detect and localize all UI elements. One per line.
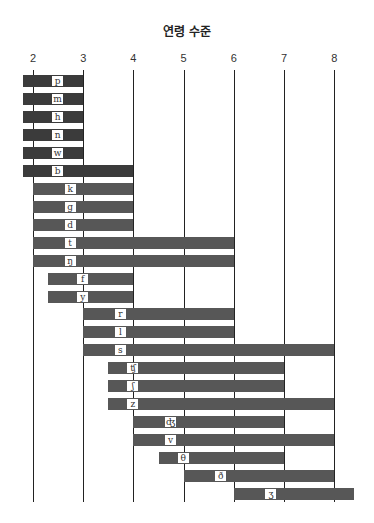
bar-f: f: [48, 273, 133, 285]
bar-label: h: [52, 112, 63, 122]
bar-label: r: [115, 309, 126, 319]
bar-d: d: [33, 219, 133, 231]
bar-y: y: [48, 291, 133, 303]
bar-label: θ: [178, 453, 189, 463]
bar-label: n: [52, 130, 63, 140]
bar-v: v: [133, 434, 334, 446]
x-tick-label: 2: [23, 52, 43, 64]
bar-label: ð: [215, 471, 226, 481]
bar-m: m: [23, 93, 83, 105]
bar-label: t: [65, 238, 76, 248]
bar-h: h: [23, 111, 83, 123]
bar-ʤ: ʤ: [133, 416, 284, 428]
x-tick-label: 5: [174, 52, 194, 64]
bar-label: ŋ: [65, 256, 76, 266]
chart-area: 연령 수준 2345678 pmhnwbkgdtŋfyrlsʧʃzʤvθðʒ: [0, 0, 374, 523]
x-tick-label: 3: [73, 52, 93, 64]
bar-ŋ: ŋ: [33, 255, 234, 267]
bar-label: g: [65, 202, 76, 212]
bar-label: z: [127, 399, 138, 409]
bar-k: k: [33, 183, 133, 195]
bar-θ: θ: [159, 452, 285, 464]
bar-label: ʧ: [127, 363, 138, 373]
bar-label: m: [52, 94, 63, 104]
bar-p: p: [23, 75, 83, 87]
bar-label: p: [52, 76, 63, 86]
bar-label: y: [77, 292, 88, 302]
bar-label: k: [65, 184, 76, 194]
bar-label: ʒ: [265, 489, 276, 499]
bar-ʒ: ʒ: [234, 488, 354, 500]
bar-label: v: [165, 435, 176, 445]
bar-label: s: [115, 345, 126, 355]
bar-t: t: [33, 237, 234, 249]
bar-l: l: [83, 326, 234, 338]
bar-s: s: [83, 344, 334, 356]
bar-g: g: [33, 201, 133, 213]
bar-b: b: [23, 165, 133, 177]
bar-label: d: [65, 220, 76, 230]
x-tick-label: 4: [123, 52, 143, 64]
bar-label: ʃ: [127, 381, 138, 391]
bar-ð: ð: [184, 470, 335, 482]
bar-label: b: [52, 166, 63, 176]
bar-label: f: [77, 274, 88, 284]
bar-r: r: [83, 308, 234, 320]
chart-title: 연령 수준: [0, 22, 374, 39]
x-tick-label: 6: [224, 52, 244, 64]
bar-label: l: [115, 327, 126, 337]
bar-w: w: [23, 147, 83, 159]
x-tick-label: 7: [274, 52, 294, 64]
bar-ʃ: ʃ: [108, 380, 284, 392]
bar-label: ʤ: [165, 417, 176, 427]
x-tick-label: 8: [324, 52, 344, 64]
bar-n: n: [23, 129, 83, 141]
bar-label: w: [52, 148, 63, 158]
bar-ʧ: ʧ: [108, 362, 284, 374]
bar-z: z: [108, 398, 334, 410]
